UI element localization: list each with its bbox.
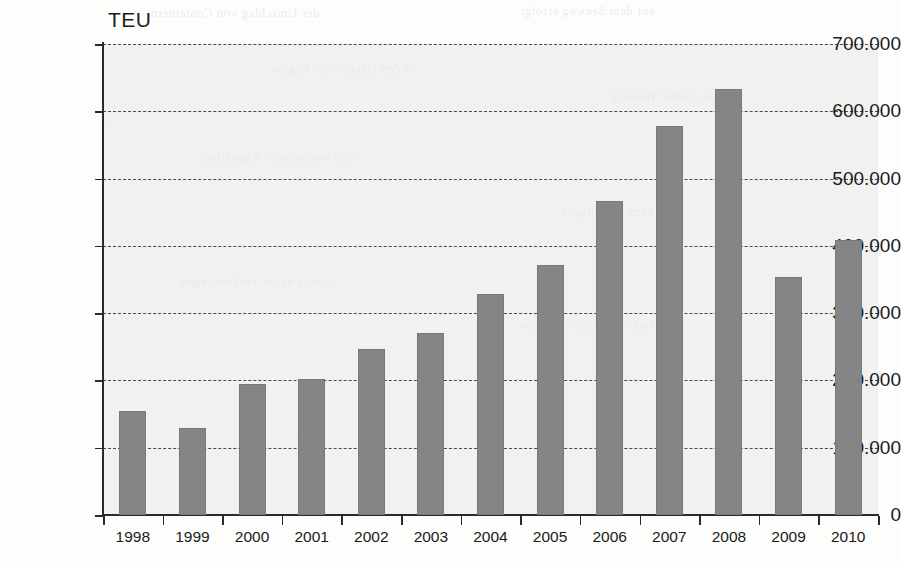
x-axis-label-2010: 2010: [819, 528, 877, 546]
x-axis-label-2003: 2003: [402, 528, 460, 546]
bar-2004: [477, 294, 504, 515]
bleed-text-line: auf dem Seeweg erfolgt: [520, 4, 654, 19]
bleed-text-line: der Umschlag von Containern: [150, 6, 319, 21]
x-axis-tick: [163, 516, 165, 525]
gridline: [103, 179, 878, 180]
bar-2003: [417, 333, 444, 515]
bar-2007: [656, 126, 683, 515]
x-axis-tick: [103, 516, 105, 525]
x-axis-tick: [401, 516, 403, 525]
y-axis-tick-label: 700.000: [811, 33, 901, 55]
x-axis-tick: [222, 516, 224, 525]
x-axis-tick: [580, 516, 582, 525]
x-axis-label-2006: 2006: [581, 528, 639, 546]
x-axis-label-2009: 2009: [760, 528, 818, 546]
x-axis-label-2004: 2004: [462, 528, 520, 546]
bar-2000: [239, 384, 266, 515]
x-axis-label-2007: 2007: [640, 528, 698, 546]
x-axis-label-2002: 2002: [342, 528, 400, 546]
bar-1998: [119, 411, 146, 515]
bar-1999: [179, 428, 206, 515]
x-axis-label-1998: 1998: [104, 528, 162, 546]
x-axis-label-2000: 2000: [223, 528, 281, 546]
gridline: [103, 111, 878, 112]
x-axis-label-2005: 2005: [521, 528, 579, 546]
x-axis-tick: [640, 516, 642, 525]
y-axis-tick-label: 600.000: [811, 100, 901, 122]
bar-2010: [835, 240, 862, 515]
y-axis-line: [102, 42, 104, 517]
bar-2008: [715, 89, 742, 515]
bar-2009: [775, 277, 802, 515]
x-axis-label-1999: 1999: [163, 528, 221, 546]
x-axis-tick: [461, 516, 463, 525]
x-axis-tick: [878, 516, 880, 525]
bar-2006: [596, 201, 623, 515]
gridline: [103, 246, 878, 247]
x-axis-tick: [818, 516, 820, 525]
x-axis-label-2008: 2008: [700, 528, 758, 546]
x-axis-tick: [520, 516, 522, 525]
y-axis-tick-label: 500.000: [811, 168, 901, 190]
chart-figure: der Umschlag von Containern auf dem Seew…: [0, 0, 901, 565]
bar-2001: [298, 379, 325, 515]
x-axis-tick: [759, 516, 761, 525]
y-axis-unit-label: TEU: [108, 8, 152, 32]
gridline: [103, 44, 878, 45]
bar-2005: [537, 265, 564, 515]
x-axis-tick: [341, 516, 343, 525]
x-axis-tick: [699, 516, 701, 525]
x-axis-label-2001: 2001: [283, 528, 341, 546]
bar-2002: [358, 349, 385, 515]
x-axis-tick: [282, 516, 284, 525]
